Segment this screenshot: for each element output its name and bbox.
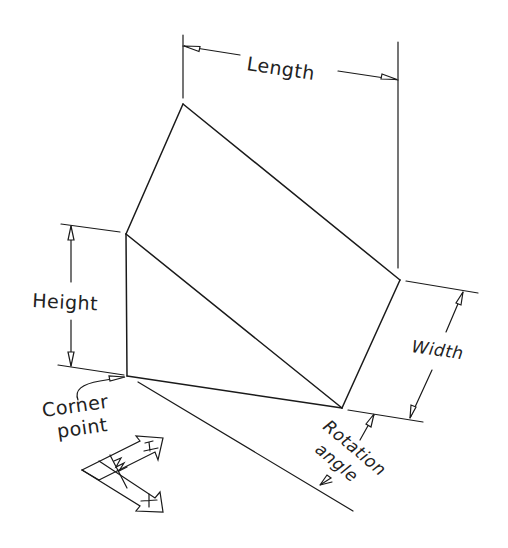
wedge-edge-vertical	[126, 234, 127, 376]
wedge-shape	[126, 104, 400, 408]
height-dimension: Height	[32, 224, 124, 375]
ucs-y-arrow-icon	[82, 436, 163, 480]
width-arrow-top-icon	[456, 292, 463, 305]
ucs-w-glyph	[114, 458, 127, 471]
rotation-angle-dimension: Rotation angle	[138, 382, 390, 511]
wedge-edge-bottom	[127, 376, 342, 408]
wedge-dimension-diagram: Length Height Width Corner poi	[0, 0, 508, 548]
wedge-edge-top	[183, 104, 400, 280]
ucs-y-glyph	[144, 441, 158, 451]
length-label: Length	[245, 52, 316, 84]
corner-point-arrow-icon	[109, 376, 125, 381]
diagram-drawing: Length Height Width Corner poi	[0, 0, 508, 548]
wedge-edge-slope	[126, 234, 342, 408]
ucs-icon	[82, 436, 163, 512]
rotation-arrow-top-icon	[366, 414, 374, 427]
length-dimension: Length	[183, 35, 398, 268]
width-arrow-bottom-icon	[410, 405, 416, 418]
width-label: Width	[410, 336, 465, 363]
height-extension-bottom	[58, 365, 124, 375]
height-arrow-top-icon	[68, 226, 74, 240]
height-arrow-bottom-icon	[68, 352, 74, 366]
wedge-edge-top-left	[126, 104, 183, 234]
width-extension-top	[406, 281, 478, 293]
length-arrow-right-icon	[381, 74, 397, 80]
wedge-edge-right	[342, 280, 400, 408]
length-arrow-left-icon	[184, 46, 200, 52]
height-label: Height	[32, 289, 99, 314]
ucs-x-glyph	[141, 494, 157, 507]
corner-point-callout: Corner point	[40, 376, 125, 442]
